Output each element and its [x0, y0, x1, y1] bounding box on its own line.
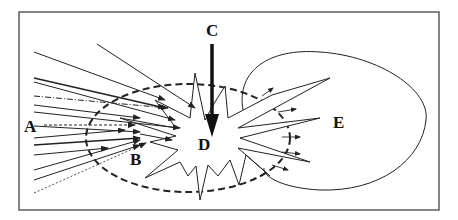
label-c: C — [206, 21, 218, 40]
label-a: A — [24, 117, 37, 136]
diagram-canvas: A B C D E — [0, 0, 458, 220]
label-e: E — [333, 113, 344, 132]
label-b: B — [130, 150, 141, 169]
arrows-a — [34, 44, 195, 193]
label-d: D — [198, 135, 210, 154]
